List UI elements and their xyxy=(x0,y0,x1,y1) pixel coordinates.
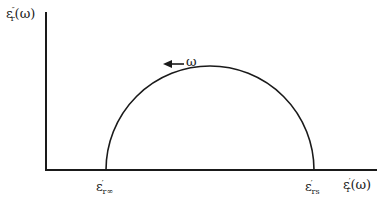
arrow-left-icon xyxy=(163,60,184,68)
y-label-arg: (ω) xyxy=(15,6,36,21)
right-label-sup: ′ xyxy=(311,178,313,187)
direction-label: ω xyxy=(186,55,197,68)
right-label-sub: rs xyxy=(312,187,320,196)
left-label-sub: r∞ xyxy=(103,187,114,196)
left-intercept-label: ε′r∞ xyxy=(96,179,113,196)
semicircle-arc xyxy=(106,66,314,170)
right-intercept-label: ε′rs xyxy=(305,179,320,196)
cole-cole-diagram xyxy=(0,0,383,199)
y-axis-label: ε″r(ω) xyxy=(6,6,35,23)
omega-label: ω xyxy=(186,54,197,69)
x-label-arg: (ω) xyxy=(350,177,371,192)
left-label-sup: ′ xyxy=(102,178,104,187)
x-axis-label: ε′r(ω) xyxy=(343,177,371,194)
